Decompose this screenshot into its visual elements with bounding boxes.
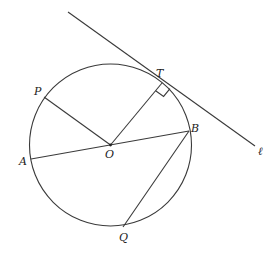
label-a: A — [18, 155, 27, 168]
label-q: Q — [119, 231, 128, 244]
center-point-o — [109, 144, 112, 147]
label-o: O — [105, 148, 114, 161]
segment-ot — [111, 83, 163, 145]
label-p: P — [33, 85, 42, 98]
label-t: T — [156, 67, 165, 80]
label-l: ℓ — [258, 145, 263, 158]
segment-op — [44, 97, 111, 145]
label-b: B — [190, 122, 199, 135]
circle-tangent-diagram: T P O A B Q ℓ — [0, 0, 280, 253]
right-angle-marker — [156, 89, 170, 97]
